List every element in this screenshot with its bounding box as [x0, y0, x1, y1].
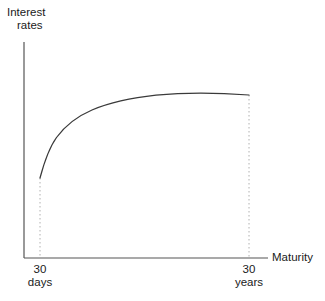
y-axis-title-line2: rates [7, 19, 67, 32]
x-tick-label-right: 30 years [219, 263, 279, 289]
yield-curve-line [40, 93, 249, 178]
y-axis-title-line1: Interest [7, 6, 45, 18]
y-axis-title: Interest rates [7, 6, 67, 32]
x-tick-right-value: 30 [219, 263, 279, 276]
x-tick-right-unit: years [219, 276, 279, 289]
yield-curve-chart: Interest rates Maturity 30 days 30 years [0, 0, 325, 301]
x-tick-left-value: 30 [10, 263, 70, 276]
x-tick-left-unit: days [10, 276, 70, 289]
x-tick-label-left: 30 days [10, 263, 70, 289]
